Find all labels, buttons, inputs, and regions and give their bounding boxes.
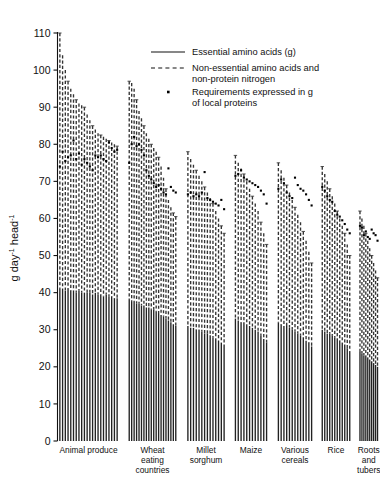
requirement-dot (111, 147, 113, 149)
legend-label: non-protein nitrogen (192, 74, 275, 84)
requirement-dot (75, 158, 77, 160)
requirement-dot (324, 190, 326, 192)
requirement-dot (365, 230, 367, 232)
requirement-dot (198, 195, 200, 197)
y-axis-title-text: g day-1 head-1 (8, 214, 20, 281)
requirement-dot (158, 184, 160, 186)
requirement-dot (143, 154, 145, 156)
requirement-dot (136, 145, 138, 147)
y-axis-tick-label: 90 (39, 101, 51, 113)
requirement-dot (78, 152, 80, 154)
requirement-dot (59, 165, 61, 167)
requirement-dot (72, 140, 74, 142)
requirement-dot (108, 141, 110, 143)
requirement-dot (371, 229, 373, 231)
requirement-dot (145, 169, 147, 171)
requirement-dot (206, 197, 208, 199)
requirement-dot (195, 193, 197, 195)
requirement-dot (326, 195, 328, 197)
requirement-dot (170, 186, 172, 188)
requirement-dot (86, 162, 88, 164)
requirement-dot (240, 169, 242, 171)
y-axis-tick-label: 10 (39, 398, 51, 410)
requirement-dot (67, 156, 69, 158)
requirement-dot (336, 214, 338, 216)
requirement-dot (116, 149, 118, 151)
requirement-dot (346, 229, 348, 231)
amino-acid-supply-chart: 0102030405060708090100110 g day-1 head-1… (0, 0, 380, 495)
requirement-dot (260, 190, 262, 192)
requirement-dot (201, 191, 203, 193)
requirement-dot (263, 193, 265, 195)
requirement-dot (367, 236, 369, 238)
requirement-dot (277, 188, 279, 190)
requirement-dot (204, 171, 206, 173)
y-axis-tick-label: 30 (39, 323, 51, 335)
requirement-dot (187, 193, 189, 195)
requirement-dot (92, 169, 94, 171)
legend-label: Non-essential amino acids and (192, 63, 319, 73)
requirement-dot (212, 201, 214, 203)
requirement-dot (150, 178, 152, 180)
requirement-dot (215, 203, 217, 205)
x-axis-group-label: Animal produce (59, 445, 118, 455)
requirement-dot (128, 162, 130, 164)
requirement-dot (331, 201, 333, 203)
y-axis-tick-label: 110 (34, 27, 51, 39)
requirement-dot (339, 216, 341, 218)
requirement-dot (94, 154, 96, 156)
requirement-dot (83, 158, 85, 160)
requirement-dot (100, 154, 102, 156)
x-axis-group-label: and (362, 455, 376, 465)
y-axis-tick-label: 50 (39, 249, 51, 261)
requirement-dot (162, 191, 164, 193)
x-axis-group-label: Maize (240, 445, 263, 455)
y-axis-tick-label: 100 (33, 64, 51, 76)
requirement-dot (243, 177, 245, 179)
y-axis-tick-label: 20 (39, 360, 51, 372)
requirement-dot (329, 199, 331, 201)
requirement-dot (280, 178, 282, 180)
requirement-dot (155, 186, 157, 188)
x-axis-group-label: eating (141, 455, 164, 465)
requirement-dot (321, 186, 323, 188)
requirement-dot (70, 154, 72, 156)
x-axis-group-label: sorghum (190, 455, 223, 465)
y-axis-title: g day-1 head-1 (8, 214, 20, 281)
requirement-dot (308, 199, 310, 201)
requirement-dot (153, 182, 155, 184)
requirement-dot (62, 151, 64, 153)
requirement-dot (349, 232, 351, 234)
requirement-dot (257, 186, 259, 188)
requirement-dot (266, 203, 268, 205)
legend-label: Essential amino acids (g) (192, 47, 296, 57)
requirement-dot (344, 223, 346, 225)
legend-label: Requirements expressed in g (192, 87, 313, 97)
requirement-dot (305, 193, 307, 195)
requirement-dot (334, 210, 336, 212)
requirement-dot (133, 136, 135, 138)
requirement-dot (220, 199, 222, 201)
requirement-dot (291, 197, 293, 199)
requirement-dot (172, 190, 174, 192)
requirement-dot (363, 234, 365, 236)
requirement-dot (375, 234, 377, 236)
x-axis-group-label: Rice (328, 445, 345, 455)
requirement-dot (113, 151, 115, 153)
requirement-dot (97, 156, 99, 158)
requirement-dot (359, 225, 361, 227)
x-axis-group-label: countries (136, 465, 170, 475)
requirement-dot (254, 184, 256, 186)
requirement-dot (299, 188, 301, 190)
requirement-dot (190, 191, 192, 193)
chart-container: 0102030405060708090100110 g day-1 head-1… (0, 0, 380, 495)
requirement-dot (138, 143, 140, 145)
requirement-dot (341, 219, 343, 221)
x-axis-group-label: Millet (196, 445, 216, 455)
requirement-dot (192, 195, 194, 197)
requirement-dot (373, 232, 375, 234)
requirement-dot (249, 180, 251, 182)
x-axis-group-label: Wheat (140, 445, 165, 455)
requirement-dot (251, 182, 253, 184)
requirement-dot (223, 208, 225, 210)
